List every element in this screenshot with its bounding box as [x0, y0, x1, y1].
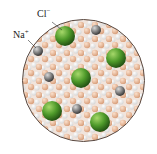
chloride-ion	[90, 112, 110, 132]
sodium-ion	[72, 104, 82, 114]
chloride-ion	[55, 26, 75, 46]
sodium-label: Na+	[13, 29, 29, 40]
sodium-ion	[91, 25, 101, 35]
chloride-label: Cl−	[37, 8, 50, 19]
solution-circle	[23, 20, 145, 142]
solution-diagram	[0, 0, 157, 154]
sodium-ion	[33, 46, 43, 56]
chloride-ion	[42, 101, 62, 121]
sodium-ion	[44, 72, 54, 82]
chloride-ion	[71, 68, 91, 88]
chloride-ion	[106, 48, 126, 68]
sodium-ion	[115, 86, 125, 96]
